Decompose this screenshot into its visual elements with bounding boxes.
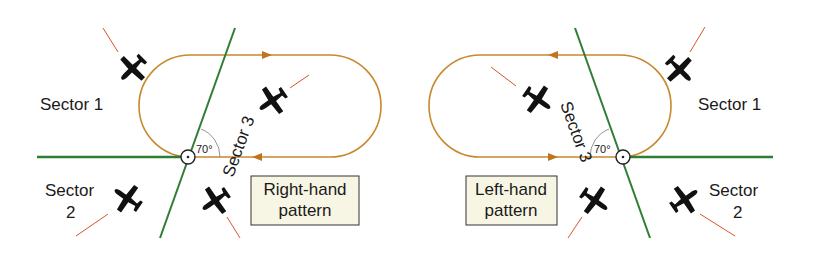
sector-3-label: Sector 3 bbox=[556, 99, 596, 165]
aircraft-icon bbox=[251, 80, 293, 122]
heading-line bbox=[568, 217, 582, 238]
heading-line bbox=[103, 28, 118, 52]
aircraft-icon bbox=[664, 179, 706, 221]
sector-2-number: 2 bbox=[66, 203, 75, 222]
pattern-label-line1: Left-hand bbox=[475, 180, 547, 199]
direction-arrow-icon bbox=[548, 153, 558, 161]
sector-boundary-line bbox=[160, 28, 235, 238]
direction-arrow-icon bbox=[548, 51, 558, 59]
right-hand-pattern-diagram: 70° Sector 1 Sector 2 Sector 3 Right-han… bbox=[37, 28, 381, 238]
heading-line bbox=[227, 217, 240, 238]
pattern-label-line1: Right-hand bbox=[263, 180, 346, 199]
left-hand-pattern-diagram: 70° Sector 1 Sector 2 Sector 3 Left-hand… bbox=[429, 27, 773, 238]
heading-line bbox=[290, 75, 309, 88]
angle-label: 70° bbox=[196, 143, 213, 155]
heading-line bbox=[76, 214, 108, 236]
holding-entry-diagram: 70° Sector 1 Sector 2 Sector 3 Right-han… bbox=[0, 0, 815, 266]
angle-label: 70° bbox=[594, 143, 611, 155]
aircraft-icon bbox=[574, 180, 616, 222]
sector-2-label: Sector bbox=[45, 181, 94, 200]
direction-arrow-icon bbox=[252, 153, 262, 161]
direction-arrow-icon bbox=[262, 51, 272, 59]
sector-3-label: Sector 3 bbox=[219, 113, 259, 179]
sector-1-label: Sector 1 bbox=[698, 95, 761, 114]
aircraft-icon bbox=[111, 47, 153, 89]
pattern-label-line2: pattern bbox=[485, 201, 538, 220]
sector-2-label: Sector bbox=[709, 181, 758, 200]
heading-line bbox=[491, 67, 516, 86]
aircraft-icon bbox=[106, 178, 148, 220]
sector-2-number: 2 bbox=[733, 203, 742, 222]
pattern-label-line2: pattern bbox=[279, 201, 332, 220]
heading-line bbox=[690, 27, 705, 52]
heading-line bbox=[700, 214, 735, 236]
aircraft-icon bbox=[517, 79, 559, 121]
aircraft-icon bbox=[658, 48, 700, 90]
holding-pattern-track bbox=[139, 55, 381, 157]
sector-1-label: Sector 1 bbox=[40, 95, 103, 114]
aircraft-icon bbox=[194, 180, 236, 222]
